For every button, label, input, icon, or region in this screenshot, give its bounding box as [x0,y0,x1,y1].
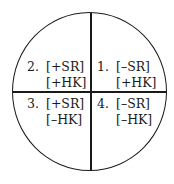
quadrant-number: 4. [97,96,116,112]
horizontal-divider [13,91,167,93]
feature-sr: [–SR] [116,96,150,111]
feature-hk: [+HK] [27,75,86,91]
feature-sr: [–SR] [116,59,150,74]
feature-hk: [–HK] [97,112,152,128]
feature-hk: [+HK] [97,75,156,91]
quadrant-4: 4.[–SR] [–HK] [97,96,152,128]
quadrant-number: 3. [27,96,46,112]
quadrant-2: 2.[+SR] [+HK] [27,59,86,91]
quadrant-diagram: 2.[+SR] [+HK] 1.[–SR] [+HK] 3.[+SR] [–HK… [0,0,174,184]
feature-sr: [+SR] [46,96,84,111]
quadrant-3: 3.[+SR] [–HK] [27,96,84,128]
feature-hk: [–HK] [27,112,84,128]
quadrant-number: 2. [27,59,46,75]
feature-sr: [+SR] [46,59,84,74]
quadrant-number: 1. [97,59,116,75]
quadrant-1: 1.[–SR] [+HK] [97,59,156,91]
